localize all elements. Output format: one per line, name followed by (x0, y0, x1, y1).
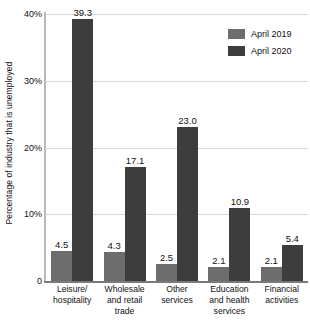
x-axis-line (44, 281, 308, 283)
bar-value-label: 5.4 (279, 233, 306, 244)
x-axis-category-label: Wholesaleand retailtrade (94, 284, 154, 317)
y-axis-tick-label: 40% (14, 9, 42, 19)
bar (282, 245, 303, 281)
legend-item: April 2020 (228, 44, 310, 57)
x-axis-category-label-line: trade (94, 306, 154, 317)
bar-group: 2.523.0 (151, 14, 203, 281)
bar (125, 167, 146, 281)
unemployment-bar-chart: Percentage of industry that is unemploye… (0, 0, 310, 323)
x-axis-category-label-line: activities (252, 295, 310, 306)
bar-value-label: 2.1 (205, 255, 232, 266)
bar (104, 252, 125, 281)
y-axis-tick-label: 10% (14, 209, 42, 219)
bar-value-label: 2.5 (153, 252, 180, 263)
x-axis-category-label-line: Financial (252, 284, 310, 295)
x-axis-category-label-line: Education (199, 284, 259, 295)
x-axis-category-label-line: Other (147, 284, 207, 295)
x-axis-category-label-line: services (199, 306, 259, 317)
x-axis-category-label: Leisure/hospitality (42, 284, 102, 306)
legend-label: April 2020 (251, 46, 292, 56)
x-axis-category-label-line: hospitality (42, 295, 102, 306)
x-axis-category-label-line: and health (199, 295, 259, 306)
bar-value-label: 10.9 (226, 196, 253, 207)
bar (208, 267, 229, 281)
bar-value-label: 23.0 (174, 115, 201, 126)
x-axis-category-label: Educationand healthservices (199, 284, 259, 317)
bar-group: 4.317.1 (98, 14, 150, 281)
x-axis-category-label: Financialactivities (252, 284, 310, 306)
legend: April 2019April 2020 (228, 27, 310, 61)
y-axis-tick-label: 0 (14, 276, 42, 286)
y-axis-tick-label: 30% (14, 76, 42, 86)
x-axis-category-label-line: services (147, 295, 207, 306)
bar (51, 251, 72, 281)
y-axis-tick-label: 20% (14, 143, 42, 153)
bar-value-label: 39.3 (69, 7, 96, 18)
bar (261, 267, 282, 281)
bar (229, 208, 250, 281)
legend-swatch (228, 46, 245, 56)
x-axis-category-label-line: Wholesale (94, 284, 154, 295)
bar (72, 19, 93, 281)
legend-swatch (228, 29, 245, 39)
x-axis-category-label-line: and retail (94, 295, 154, 306)
bar-value-label: 2.1 (258, 255, 285, 266)
bar-group: 4.539.3 (46, 14, 98, 281)
y-axis-tick-labels: 010%20%30%40% (10, 0, 42, 323)
bar-value-label: 17.1 (122, 155, 149, 166)
legend-item: April 2019 (228, 27, 310, 40)
bar (156, 264, 177, 281)
legend-label: April 2019 (251, 29, 292, 39)
bar-value-label: 4.3 (101, 240, 128, 251)
bar (177, 127, 198, 281)
x-axis-category-label: Otherservices (147, 284, 207, 306)
x-axis-category-labels: Leisure/hospitalityWholesaleand retailtr… (46, 284, 308, 323)
x-axis-category-label-line: Leisure/ (42, 284, 102, 295)
bar-value-label: 4.5 (48, 239, 75, 250)
